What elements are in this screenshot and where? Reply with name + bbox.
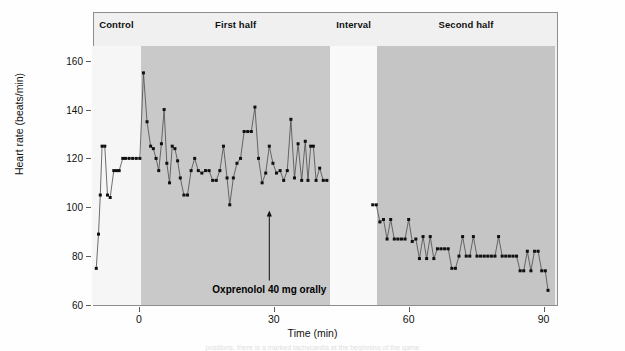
data-point-marker xyxy=(472,235,475,238)
y-tick-label: 120 xyxy=(66,153,83,164)
series-line-segment xyxy=(373,205,548,291)
caption-partial: positions, there is a marked tachycardia… xyxy=(0,344,625,351)
y-tick-mark xyxy=(86,61,91,62)
data-point-marker xyxy=(537,250,540,253)
y-tick-mark xyxy=(86,305,91,306)
data-point-marker xyxy=(163,108,166,111)
data-point-marker xyxy=(268,145,271,148)
data-point-marker xyxy=(432,257,435,260)
data-point-marker xyxy=(109,196,112,199)
plot-frame: ControlFirst halfIntervalSecond half xyxy=(93,12,558,306)
x-tick-label: 0 xyxy=(136,313,142,325)
data-point-marker xyxy=(515,255,518,258)
data-point-marker xyxy=(286,169,289,172)
data-point-marker xyxy=(182,194,185,197)
data-point-marker xyxy=(152,147,155,150)
data-point-marker xyxy=(128,157,131,160)
data-point-marker xyxy=(200,172,203,175)
data-point-marker xyxy=(490,255,493,258)
data-point-marker xyxy=(475,255,478,258)
data-point-marker xyxy=(497,235,500,238)
x-tick-mark xyxy=(274,307,275,312)
data-point-marker xyxy=(171,145,174,148)
x-tick-mark xyxy=(544,307,545,312)
data-point-marker xyxy=(253,106,256,109)
data-point-marker xyxy=(282,179,285,182)
data-point-marker xyxy=(443,247,446,250)
data-point-marker xyxy=(121,157,124,160)
data-point-marker xyxy=(493,255,496,258)
data-point-marker xyxy=(300,179,303,182)
data-point-marker xyxy=(135,157,138,160)
data-point-marker xyxy=(289,118,292,121)
data-point-marker xyxy=(190,169,193,172)
data-point-marker xyxy=(504,255,507,258)
data-point-marker xyxy=(235,162,238,165)
data-point-marker xyxy=(322,179,325,182)
data-point-marker xyxy=(279,169,282,172)
data-point-marker xyxy=(226,176,229,179)
data-point-marker xyxy=(304,140,307,143)
data-point-marker xyxy=(232,176,235,179)
data-point-marker xyxy=(115,169,118,172)
data-point-marker xyxy=(243,130,246,133)
data-point-marker xyxy=(297,142,300,145)
data-point-marker xyxy=(540,269,543,272)
data-point-marker xyxy=(271,162,274,165)
y-tick-mark xyxy=(86,256,91,257)
data-point-marker xyxy=(479,255,482,258)
data-point-marker xyxy=(138,157,141,160)
x-tick-label: 30 xyxy=(268,313,280,325)
data-point-marker xyxy=(396,238,399,241)
data-point-marker xyxy=(429,235,432,238)
series-0 xyxy=(95,71,550,291)
data-point-marker xyxy=(168,181,171,184)
data-point-marker xyxy=(312,145,315,148)
phase-label-second-half: Second half xyxy=(438,19,493,30)
data-point-marker xyxy=(208,169,211,172)
data-point-marker xyxy=(544,269,547,272)
phase-label-control: Control xyxy=(99,19,133,30)
data-point-marker xyxy=(375,203,378,206)
y-tick-label: 160 xyxy=(66,55,83,66)
data-point-marker xyxy=(325,179,328,182)
y-tick-label: 140 xyxy=(66,104,83,115)
data-point-marker xyxy=(465,255,468,258)
data-point-marker xyxy=(382,218,385,221)
data-point-marker xyxy=(501,255,504,258)
data-point-marker xyxy=(425,257,428,260)
data-point-marker xyxy=(293,176,296,179)
data-point-marker xyxy=(228,203,231,206)
data-point-marker xyxy=(414,238,417,241)
data-point-marker xyxy=(146,120,149,123)
y-tick-mark xyxy=(86,110,91,111)
heart-rate-line-chart xyxy=(94,46,557,305)
annotation-label: Oxprenolol 40 mg orally xyxy=(212,284,326,295)
data-point-marker xyxy=(436,247,439,250)
data-point-marker xyxy=(526,250,529,253)
data-point-marker xyxy=(257,157,260,160)
data-point-marker xyxy=(389,218,392,221)
data-point-marker xyxy=(99,194,102,197)
y-tick-label: 100 xyxy=(66,202,83,213)
data-point-marker xyxy=(103,145,106,148)
x-tick-label: 60 xyxy=(403,313,415,325)
data-point-marker xyxy=(393,238,396,241)
data-point-marker xyxy=(264,172,267,175)
data-point-marker xyxy=(204,169,207,172)
data-point-marker xyxy=(483,255,486,258)
data-point-marker xyxy=(440,247,443,250)
data-point-marker xyxy=(211,179,214,182)
data-point-marker xyxy=(157,169,160,172)
data-point-marker xyxy=(149,145,152,148)
data-point-marker xyxy=(124,157,127,160)
data-point-marker xyxy=(454,267,457,270)
data-point-marker xyxy=(404,238,407,241)
y-tick-mark xyxy=(86,207,91,208)
phase-label-first-half: First half xyxy=(215,19,256,30)
data-point-marker xyxy=(371,203,374,206)
x-tick-mark xyxy=(409,307,410,312)
data-point-marker xyxy=(176,159,179,162)
data-point-marker xyxy=(118,169,121,172)
data-point-marker xyxy=(458,255,461,258)
